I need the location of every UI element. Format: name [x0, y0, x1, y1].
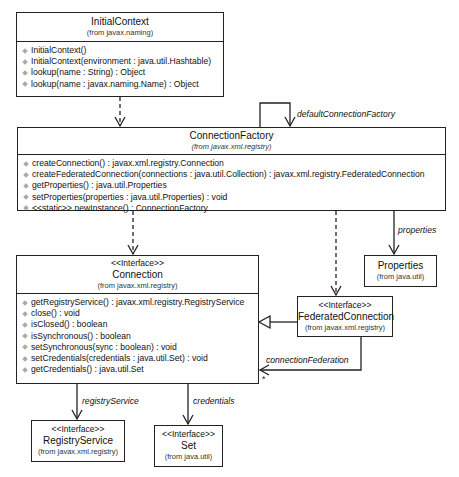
generalization-federated-to-connection: [259, 316, 297, 328]
class-name: Connection: [17, 269, 258, 281]
dependency-connectionfactory-federatedconnection: [331, 211, 341, 295]
operation: setSynchronous(sync : boolean) : void: [21, 342, 258, 353]
class-package: (from javax.xml.registry): [18, 142, 445, 152]
public-operation-icon: [22, 322, 28, 328]
class-header: <<Interface>> FederatedConnection (from …: [298, 297, 392, 333]
class-package: (from java.util): [365, 272, 436, 282]
operation: createConnection() : javax.xml.registry.…: [22, 158, 445, 169]
stereotype: <<Interface>>: [32, 424, 124, 435]
class-header: ConnectionFactory (from javax.xml.regist…: [18, 128, 445, 155]
operation: InitialContext(environment : java.util.H…: [21, 56, 223, 67]
interface-federated-connection[interactable]: <<Interface>> FederatedConnection (from …: [297, 296, 393, 337]
dependency-initialcontext-connectionfactory: [115, 97, 125, 126]
operations-list: InitialContext() InitialContext(environm…: [17, 42, 223, 90]
public-operation-icon: [22, 70, 28, 76]
public-operation-icon: [22, 81, 28, 87]
public-operation-icon: [23, 172, 29, 178]
class-package: (from java.util): [155, 452, 222, 462]
operation: setProperties(properties : java.util.Pro…: [22, 192, 445, 203]
class-connection-factory[interactable]: ConnectionFactory (from javax.xml.regist…: [17, 127, 446, 211]
label-connection-federation: connectionFederation: [266, 355, 349, 365]
association-registry-service: [72, 384, 82, 419]
class-package: (from javax.naming): [17, 28, 223, 38]
label-registry-service: registryService: [82, 396, 139, 406]
operation: setCredentials(credentials : java.util.S…: [21, 353, 258, 364]
label-connection-federation-multiplicity: *: [262, 374, 265, 384]
operation: createFederatedConnection(connections : …: [22, 169, 445, 180]
class-package: (from javax.xml.registry): [17, 281, 258, 291]
association-default-connection-factory: [260, 103, 295, 127]
class-name: ConnectionFactory: [18, 130, 445, 142]
class-package: (from javax.xml.registry): [32, 447, 124, 457]
operation: getRegistryService() : javax.xml.registr…: [21, 297, 258, 308]
label-default-connection-factory: defaultConnectionFactory: [297, 109, 395, 119]
operation: lookup(name : javax.naming.Name) : Objec…: [21, 79, 223, 90]
public-operation-icon: [22, 333, 28, 339]
label-properties: properties: [398, 225, 436, 235]
interface-set[interactable]: <<Interface>> Set (from java.util): [154, 425, 223, 467]
operation: isSynchronous() : boolean: [21, 331, 258, 342]
class-header: <<Interface>> Set (from java.util): [155, 426, 222, 462]
class-name: InitialContext: [17, 16, 223, 28]
public-operation-icon: [22, 311, 28, 317]
operations-list: createConnection() : javax.xml.registry.…: [18, 155, 445, 214]
association-credentials: [183, 384, 193, 424]
public-operation-icon: [23, 206, 29, 212]
dependency-connectionfactory-connection: [128, 211, 138, 254]
stereotype: <<Interface>>: [17, 258, 258, 269]
class-name: Properties: [365, 260, 436, 272]
operation: lookup(name : String) : Object: [21, 67, 223, 78]
operation: getCredentials() : java.util.Set: [21, 364, 258, 375]
public-operation-icon: [22, 367, 28, 373]
stereotype: <<Interface>>: [298, 300, 392, 311]
public-operation-icon: [23, 183, 29, 189]
public-operation-icon: [22, 48, 28, 54]
operation: <<static>> newInstance() : ConnectionFac…: [22, 203, 445, 214]
class-header: InitialContext (from javax.naming): [17, 13, 223, 42]
public-operation-icon: [22, 300, 28, 306]
class-header: <<Interface>> Connection (from javax.xml…: [17, 256, 258, 294]
class-package: (from javax.xml.registry): [298, 323, 392, 333]
class-name: FederatedConnection: [298, 311, 392, 323]
interface-connection[interactable]: <<Interface>> Connection (from javax.xml…: [16, 255, 259, 384]
stereotype: <<Interface>>: [155, 429, 222, 440]
public-operation-icon: [22, 345, 28, 351]
class-name: Set: [155, 440, 222, 452]
operation: close() : void: [21, 308, 258, 319]
label-credentials: credentials: [193, 396, 235, 406]
public-operation-icon: [22, 59, 28, 65]
operation: getProperties() : java.util.Properties: [22, 180, 445, 191]
class-name: RegistryService: [32, 435, 124, 447]
operation: isClosed() : boolean: [21, 319, 258, 330]
class-properties[interactable]: Properties (from java.util): [364, 255, 437, 287]
operation: InitialContext(): [21, 45, 223, 56]
class-header: Properties (from java.util): [365, 256, 436, 282]
class-initial-context[interactable]: InitialContext (from javax.naming) Initi…: [16, 12, 224, 97]
class-header: <<Interface>> RegistryService (from java…: [32, 421, 124, 457]
public-operation-icon: [23, 161, 29, 167]
public-operation-icon: [23, 194, 29, 200]
public-operation-icon: [22, 356, 28, 362]
interface-registry-service[interactable]: <<Interface>> RegistryService (from java…: [31, 420, 125, 462]
operations-list: getRegistryService() : javax.xml.registr…: [17, 294, 258, 375]
